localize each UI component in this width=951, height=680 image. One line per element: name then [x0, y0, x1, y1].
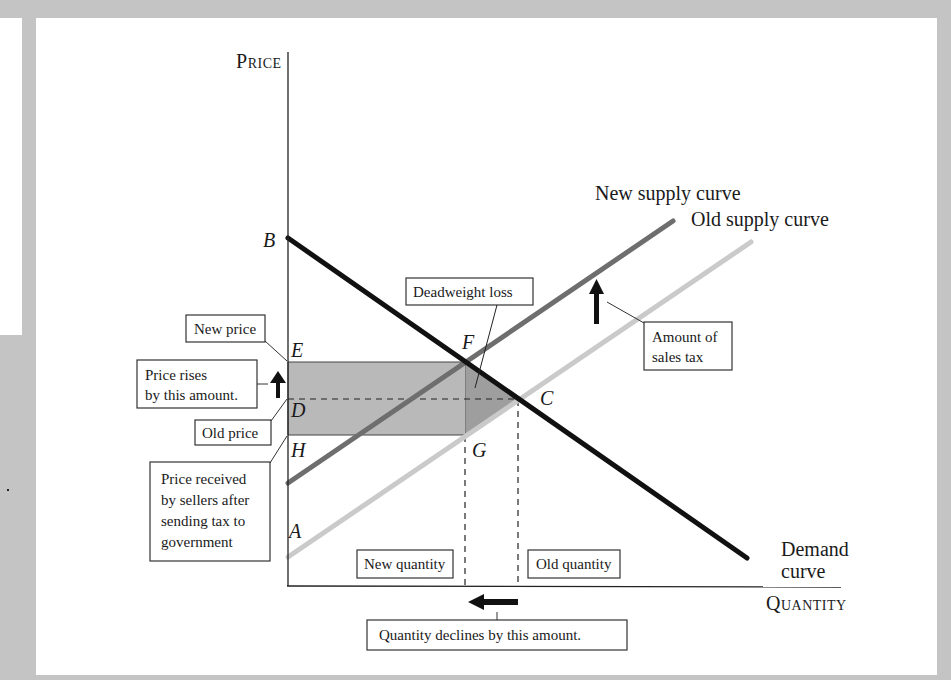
- x-axis-label: QUANTITY: [766, 592, 847, 614]
- sales-tax-callout: Amount of sales tax: [607, 302, 732, 370]
- tax-incidence-diagram: PRICE QUANTITY B E D H A F C G New suppl…: [0, 0, 951, 680]
- price-received-callout: Price received by sellers after sending …: [150, 436, 287, 561]
- point-label-c: C: [540, 387, 554, 409]
- point-label-b: B: [263, 229, 275, 251]
- new-supply-label: New supply curve: [595, 182, 741, 205]
- point-label-a: A: [287, 520, 302, 542]
- old-supply-label: Old supply curve: [691, 208, 829, 231]
- svg-text:sending tax to: sending tax to: [161, 513, 245, 529]
- svg-text:Old quantity: Old quantity: [536, 556, 612, 572]
- price-rise-up-arrow-icon: [270, 371, 286, 398]
- new-price-callout: New price: [186, 315, 287, 361]
- svg-text:Amount of: Amount of: [652, 329, 717, 345]
- diagram-stage: PRICE QUANTITY B E D H A F C G New suppl…: [0, 0, 951, 680]
- old-quantity-callout: Old quantity: [528, 550, 620, 578]
- new-quantity-callout: New quantity: [357, 550, 453, 578]
- svg-text:New quantity: New quantity: [364, 556, 446, 572]
- svg-text:Price received: Price received: [161, 471, 247, 487]
- svg-text:sales tax: sales tax: [652, 349, 704, 365]
- quantity-declines-callout: Quantity declines by this amount.: [367, 612, 627, 650]
- y-axis-label: PRICE: [236, 50, 282, 72]
- demand-label-line1: curve: [781, 560, 826, 582]
- svg-text:Quantity declines by this amou: Quantity declines by this amount.: [379, 627, 581, 643]
- demand-label-line1: Demand: [781, 538, 849, 560]
- point-label-h: H: [290, 439, 307, 461]
- point-label-d: D: [290, 399, 306, 421]
- x-axis: [287, 586, 841, 587]
- sales-tax-up-arrow-icon: [589, 279, 604, 324]
- point-label-e: E: [290, 339, 303, 361]
- svg-text:by this amount.: by this amount.: [145, 387, 238, 403]
- point-label-g: G: [472, 439, 487, 461]
- quantity-decline-left-arrow-icon: [468, 594, 518, 610]
- svg-text:government: government: [161, 534, 233, 550]
- svg-text:Deadweight loss: Deadweight loss: [413, 284, 513, 300]
- price-rises-callout: Price rises by this amount.: [137, 360, 268, 408]
- svg-text:Old price: Old price: [202, 425, 259, 441]
- svg-text:Price rises: Price rises: [145, 367, 207, 383]
- svg-text:New price: New price: [194, 321, 256, 337]
- point-label-f: F: [461, 331, 475, 353]
- svg-text:by sellers after: by sellers after: [161, 492, 249, 508]
